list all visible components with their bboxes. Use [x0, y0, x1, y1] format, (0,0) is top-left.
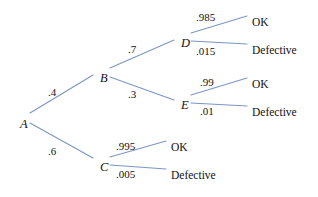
- branch-probability-c-ok: .995: [116, 141, 135, 152]
- branch-probability-c-def: .005: [116, 169, 135, 180]
- outcome-label-e-def: Defective: [252, 107, 297, 119]
- branch-probability-d-def: .015: [196, 46, 215, 57]
- tree-node-d: D: [181, 37, 190, 50]
- branch-probability-d-ok: .985: [196, 12, 215, 23]
- outcome-label-c-def: Defective: [171, 170, 216, 182]
- branch-probability-b-d: .7: [128, 44, 136, 55]
- tree-branch-lines: [0, 0, 318, 197]
- branch-probability-e-def: .01: [200, 106, 214, 117]
- outcome-label-c-ok: OK: [171, 142, 188, 154]
- tree-node-e: E: [181, 99, 189, 112]
- branch-line-a-b: [30, 75, 93, 113]
- tree-node-a: A: [20, 118, 28, 131]
- branch-line-b-e: [110, 77, 174, 100]
- branch-probability-e-ok: .99: [200, 77, 214, 88]
- branch-probability-a-b: .4: [48, 87, 56, 98]
- probability-tree-diagram: .4.6.7.3.985.015.99.01.995.005ABCDEOKDef…: [0, 0, 318, 197]
- outcome-label-d-ok: OK: [252, 17, 269, 29]
- branch-line-d-def: [191, 41, 247, 44]
- tree-node-b: B: [100, 72, 108, 85]
- branch-probability-b-e: .3: [128, 89, 136, 100]
- branch-line-a-c: [30, 123, 93, 158]
- branch-line-b-d: [110, 40, 174, 68]
- branch-probability-a-c: .6: [48, 146, 56, 157]
- tree-node-c: C: [100, 161, 109, 174]
- outcome-label-d-def: Defective: [252, 45, 297, 57]
- outcome-label-e-ok: OK: [252, 79, 269, 91]
